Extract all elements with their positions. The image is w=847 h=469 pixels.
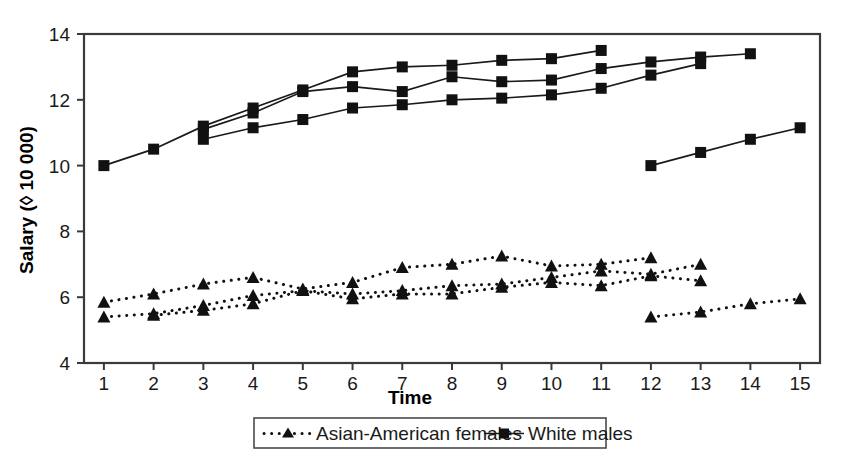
marker-square [248, 107, 259, 118]
marker-square [695, 147, 706, 158]
marker-square [695, 58, 706, 69]
x-tick-label-9: 9 [496, 373, 507, 394]
x-tick-label-6: 6 [347, 373, 358, 394]
y-tick-label-6: 6 [59, 287, 70, 308]
marker-square [745, 134, 756, 145]
marker-square [447, 94, 458, 105]
x-tick-label-15: 15 [790, 373, 811, 394]
marker-square [496, 76, 507, 87]
marker-square [347, 81, 358, 92]
marker-square [496, 93, 507, 104]
marker-square [148, 144, 159, 155]
marker-square [198, 134, 209, 145]
x-tick-label-14: 14 [740, 373, 762, 394]
chart-legend: Asian-American females White males [254, 418, 633, 448]
y-tick-label-4: 4 [59, 353, 70, 374]
marker-square [447, 71, 458, 82]
y-tick-label-14: 14 [49, 24, 71, 45]
x-tick-label-2: 2 [148, 373, 159, 394]
marker-square [645, 56, 656, 67]
x-tick-label-10: 10 [541, 373, 562, 394]
marker-square [596, 83, 607, 94]
legend-square-marker-icon [499, 429, 509, 439]
marker-square [496, 55, 507, 66]
marker-square [546, 75, 557, 86]
marker-square [397, 61, 408, 72]
x-tick-label-1: 1 [99, 373, 110, 394]
x-tick-label-12: 12 [640, 373, 661, 394]
marker-square [297, 86, 308, 97]
marker-square [596, 63, 607, 74]
salary-vs-time-chart: 14 12 10 8 6 4 Salary (◊ 10 000) 1234567… [0, 0, 847, 469]
marker-square [645, 160, 656, 171]
x-axis-title: Time [388, 387, 432, 408]
x-tick-label-4: 4 [248, 373, 259, 394]
x-tick-label-5: 5 [298, 373, 309, 394]
x-tick-label-3: 3 [198, 373, 209, 394]
marker-square [98, 160, 109, 171]
marker-square [645, 70, 656, 81]
chart-figure: 14 12 10 8 6 4 Salary (◊ 10 000) 1234567… [0, 0, 847, 469]
marker-square [745, 48, 756, 59]
x-tick-label-8: 8 [447, 373, 458, 394]
y-tick-label-8: 8 [59, 221, 70, 242]
marker-square [397, 99, 408, 110]
x-tick-label-11: 11 [591, 373, 611, 394]
marker-square [248, 122, 259, 133]
marker-square [347, 103, 358, 114]
marker-square [795, 122, 806, 133]
x-tick-label-13: 13 [690, 373, 711, 394]
marker-square [546, 53, 557, 64]
y-axis-title: Salary (◊ 10 000) [16, 126, 37, 274]
marker-square [447, 60, 458, 71]
marker-square [596, 45, 607, 56]
legend-label-white-males: White males [528, 423, 633, 444]
marker-square [347, 66, 358, 77]
y-tick-label-12: 12 [49, 90, 70, 111]
marker-square [198, 124, 209, 135]
marker-square [297, 114, 308, 125]
y-tick-label-10: 10 [49, 156, 70, 177]
marker-square [546, 89, 557, 100]
marker-square [397, 86, 408, 97]
